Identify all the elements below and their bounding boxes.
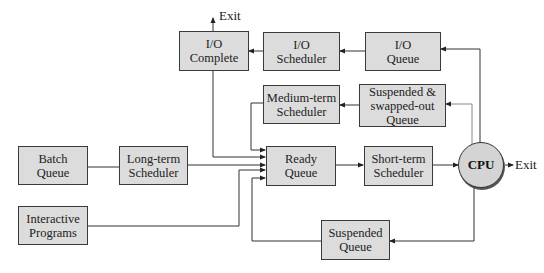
io-queue-box: I/OQueue [365, 32, 441, 71]
interactive-programs-line2: Programs [26, 226, 79, 240]
batch-queue-line1: Batch [37, 152, 70, 166]
suspended-swapped-line2: swapped-out [369, 99, 436, 113]
ready-queue-line1: Ready [285, 152, 318, 166]
io-scheduler-line2: Scheduler [277, 52, 327, 66]
batch-queue-box: BatchQueue [18, 146, 88, 185]
io-scheduler-box: I/OScheduler [263, 32, 340, 71]
long-term-line1: Long-term [127, 152, 180, 166]
suspended-queue-box: SuspendedQueue [321, 220, 390, 260]
cpu-label: CPU [468, 157, 495, 173]
suspended-swapped-line1: Suspended & [369, 85, 436, 99]
suspended-swapped-line3: Queue [369, 113, 436, 127]
exit-label-cpu: Exit [515, 157, 537, 173]
batch-queue-line2: Queue [37, 166, 70, 180]
io-queue-line2: Queue [387, 52, 420, 66]
medium-term-line1: Medium-term [267, 91, 336, 105]
suspended-queue-line2: Queue [328, 240, 382, 254]
ready-queue-line2: Queue [285, 166, 318, 180]
io-complete-line1: I/O [190, 37, 239, 51]
long-term-scheduler-box: Long-termScheduler [119, 146, 188, 185]
io-scheduler-line1: I/O [277, 38, 327, 52]
suspended-queue-line1: Suspended [328, 226, 382, 240]
long-term-line2: Scheduler [127, 166, 180, 180]
io-complete-box: I/OComplete [179, 31, 249, 71]
io-queue-line1: I/O [387, 38, 420, 52]
medium-term-line2: Scheduler [267, 105, 336, 119]
short-term-line2: Scheduler [371, 166, 425, 180]
suspended-swapped-out-queue-box: Suspended &swapped-outQueue [359, 84, 446, 127]
exit-label-top: Exit [219, 8, 241, 24]
process-scheduling-diagram: Exit I/OComplete I/OScheduler I/OQueue M… [0, 0, 544, 273]
ready-queue-box: ReadyQueue [266, 146, 336, 186]
medium-term-scheduler-box: Medium-termScheduler [263, 85, 340, 124]
interactive-programs-box: InteractivePrograms [18, 206, 88, 245]
short-term-scheduler-box: Short-termScheduler [364, 146, 433, 186]
interactive-programs-line1: Interactive [26, 212, 79, 226]
io-complete-line2: Complete [190, 51, 239, 65]
short-term-line1: Short-term [371, 152, 425, 166]
cpu-node: CPU [458, 142, 504, 188]
